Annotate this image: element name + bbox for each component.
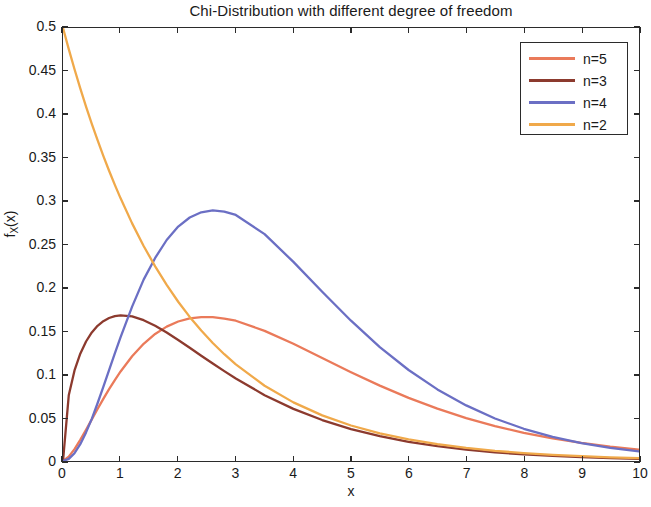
legend-label: n=3 bbox=[583, 73, 607, 89]
x-tick-mark bbox=[119, 27, 120, 33]
legend-color-swatch bbox=[529, 101, 575, 104]
x-tick-mark bbox=[408, 27, 409, 33]
x-tick-mark bbox=[466, 456, 467, 462]
y-axis-label-arg: (x) bbox=[2, 211, 18, 227]
x-axis-label: x bbox=[62, 483, 640, 499]
legend-color-swatch bbox=[529, 79, 575, 82]
legend-label: n=4 bbox=[583, 95, 607, 111]
y-tick-mark bbox=[634, 374, 640, 375]
y-tick-label: 0.45 bbox=[4, 62, 56, 78]
y-tick-mark bbox=[634, 157, 640, 158]
y-tick-label: 0.35 bbox=[4, 149, 56, 165]
y-tick-mark bbox=[634, 287, 640, 288]
y-tick-label: 0.2 bbox=[4, 279, 56, 295]
x-tick-mark bbox=[119, 456, 120, 462]
y-tick-mark bbox=[634, 418, 640, 419]
y-tick-mark bbox=[62, 331, 68, 332]
legend-item-n=4[interactable]: n=4 bbox=[521, 91, 629, 114]
y-tick-label: 0.4 bbox=[4, 105, 56, 121]
y-tick-mark bbox=[634, 461, 640, 462]
y-tick-mark bbox=[62, 26, 68, 27]
y-tick-mark bbox=[634, 244, 640, 245]
y-tick-mark bbox=[634, 70, 640, 71]
y-tick-label: 0.5 bbox=[4, 18, 56, 34]
x-tick-mark bbox=[350, 456, 351, 462]
chart-title: Chi-Distribution with different degree o… bbox=[62, 2, 640, 19]
x-tick-label: 6 bbox=[389, 465, 429, 481]
y-tick-label: 0.05 bbox=[4, 410, 56, 426]
legend-color-swatch bbox=[529, 123, 575, 126]
y-tick-mark bbox=[62, 461, 68, 462]
x-tick-mark bbox=[466, 27, 467, 33]
x-tick-label: 3 bbox=[215, 465, 255, 481]
y-tick-mark bbox=[634, 113, 640, 114]
x-tick-mark bbox=[350, 27, 351, 33]
y-axis-label-subscript: X bbox=[9, 227, 20, 234]
legend-item-n=2[interactable]: n=2 bbox=[521, 113, 629, 136]
x-tick-mark bbox=[582, 27, 583, 33]
y-tick-label: 0.1 bbox=[4, 366, 56, 382]
legend-item-n=3[interactable]: n=3 bbox=[521, 69, 629, 92]
y-axis-label-base: f bbox=[2, 234, 18, 238]
curve-n=4 bbox=[63, 210, 639, 461]
y-axis-label-wrapper: fX(x) bbox=[1, 189, 25, 259]
x-tick-mark bbox=[639, 27, 640, 33]
x-tick-mark bbox=[524, 456, 525, 462]
y-tick-label: 0.15 bbox=[4, 323, 56, 339]
x-tick-label: 5 bbox=[331, 465, 371, 481]
x-tick-mark bbox=[177, 456, 178, 462]
legend-label: n=5 bbox=[583, 51, 607, 67]
y-tick-mark bbox=[62, 244, 68, 245]
y-tick-mark bbox=[62, 287, 68, 288]
chart-figure: Chi-Distribution with different degree o… bbox=[0, 0, 651, 507]
x-tick-label: 4 bbox=[273, 465, 313, 481]
x-tick-label: 9 bbox=[562, 465, 602, 481]
chart-legend[interactable]: n=5n=3n=4n=2 bbox=[520, 42, 628, 135]
x-tick-label: 1 bbox=[100, 465, 140, 481]
x-tick-mark bbox=[293, 27, 294, 33]
x-tick-mark bbox=[177, 27, 178, 33]
x-tick-label: 7 bbox=[447, 465, 487, 481]
y-tick-mark bbox=[62, 70, 68, 71]
x-tick-mark bbox=[61, 27, 62, 33]
x-tick-mark bbox=[235, 456, 236, 462]
x-tick-mark bbox=[408, 456, 409, 462]
x-tick-label: 2 bbox=[158, 465, 198, 481]
x-tick-label: 8 bbox=[504, 465, 544, 481]
y-tick-mark bbox=[62, 418, 68, 419]
y-tick-mark bbox=[62, 113, 68, 114]
legend-label: n=2 bbox=[583, 117, 607, 133]
curve-n=5 bbox=[63, 317, 639, 461]
legend-item-n=5[interactable]: n=5 bbox=[521, 47, 629, 70]
y-tick-label: 0 bbox=[4, 453, 56, 469]
legend-color-swatch bbox=[529, 57, 575, 60]
x-tick-label: 10 bbox=[620, 465, 651, 481]
y-tick-mark bbox=[634, 331, 640, 332]
y-tick-mark bbox=[62, 200, 68, 201]
y-tick-mark bbox=[634, 200, 640, 201]
x-tick-mark bbox=[235, 27, 236, 33]
y-tick-mark bbox=[634, 26, 640, 27]
y-tick-mark bbox=[62, 157, 68, 158]
y-tick-mark bbox=[62, 374, 68, 375]
y-axis-label: fX(x) bbox=[2, 211, 18, 238]
x-tick-mark bbox=[524, 27, 525, 33]
x-tick-mark bbox=[293, 456, 294, 462]
x-tick-mark bbox=[582, 456, 583, 462]
